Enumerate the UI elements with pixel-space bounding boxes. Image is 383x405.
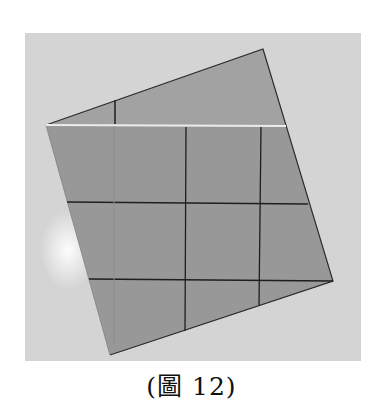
fold-crease bbox=[46, 125, 286, 126]
figure-caption: (圖 12) bbox=[0, 366, 383, 402]
folded-paper-photo bbox=[0, 0, 383, 405]
